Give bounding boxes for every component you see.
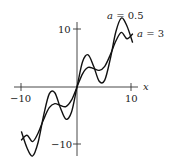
y-tick-label-pos10: 10 [58,24,71,35]
legend-label-a-0.5: a = 0.5 [107,10,144,21]
legend-label-a-3: a = 3 [137,28,164,39]
legend-var-a: a [137,28,143,39]
y-tick-label-neg10: −10 [51,139,72,150]
legend-val: = 3 [146,28,164,39]
x-axis-label: x [143,81,149,92]
function-plot: −10 10 10 −10 x a = 0.5 a = 3 [0,0,171,162]
x-tick-label-pos10: 10 [125,93,138,104]
legend-val: = 0.5 [116,10,143,21]
x-tick-label-neg10: −10 [10,93,31,104]
legend-var-a: a [107,10,113,21]
